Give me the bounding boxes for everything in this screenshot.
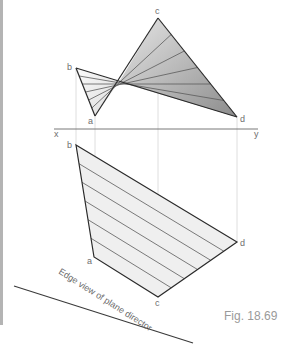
point-label-c-front: c [155, 298, 160, 308]
point-label-a-front: a [87, 256, 92, 266]
point-label-b-front: b [67, 140, 72, 150]
top-view-left-surface [76, 68, 119, 116]
top-view: b a c d [67, 6, 245, 126]
figure-caption: Fig. 18.69 [224, 309, 278, 323]
front-view: b a c d [67, 140, 245, 308]
point-label-d-top: d [240, 114, 245, 124]
point-label-a-top: a [88, 116, 93, 126]
front-view-surface [76, 145, 237, 297]
reference-label-x: x [54, 129, 59, 139]
warped-surface-diagram: b a c d x y b a c d Edge view of plane d… [0, 0, 284, 360]
reference-label-y: y [254, 129, 259, 139]
point-label-b-top: b [67, 62, 72, 72]
reference-line-xy: x y [54, 129, 259, 139]
top-view-right-surface [119, 18, 237, 117]
point-label-c-top: c [155, 6, 160, 16]
point-label-d-front: d [240, 238, 245, 248]
